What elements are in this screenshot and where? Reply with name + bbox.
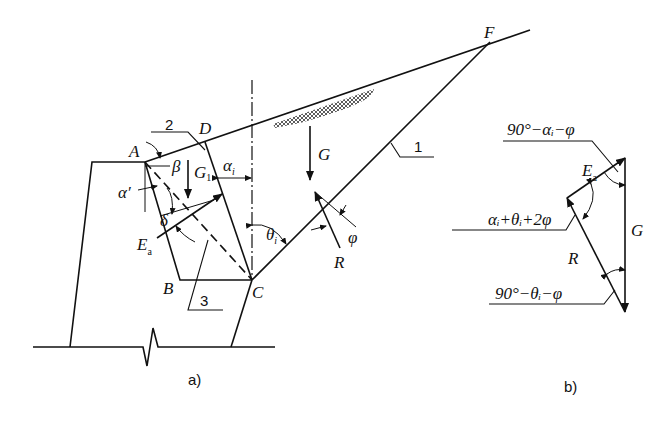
Ea-angle-arc xyxy=(176,226,195,242)
point-C-label: C xyxy=(252,283,264,302)
b-R-label: R xyxy=(567,249,579,268)
b-bottom-arc xyxy=(607,270,625,275)
b-mid-arc xyxy=(583,184,593,219)
force-diagram: A B C D F 1 2 3 G G1 Ea R αi β α′ δ θi φ… xyxy=(0,0,654,422)
angle-theta-i-label: θi xyxy=(266,225,277,246)
point-F-label: F xyxy=(483,23,495,42)
wall-heel xyxy=(231,280,252,347)
angle-beta-label: β xyxy=(171,157,181,176)
callout-3-label: 3 xyxy=(200,292,208,309)
retaining-wall xyxy=(70,162,145,347)
b-top-angle-label: 90°−αᵢ−φ xyxy=(507,120,575,139)
panel-a xyxy=(33,30,530,366)
force-Ea-label: Ea xyxy=(136,235,152,257)
phi-arc-2 xyxy=(311,226,326,230)
callout-2-leader xyxy=(151,132,205,150)
phi-arc-1 xyxy=(340,205,346,215)
Ea-parallel xyxy=(160,200,214,216)
angle-delta-label: δ xyxy=(160,211,169,230)
force-G1-label: G1 xyxy=(194,163,211,183)
callout-1-leader xyxy=(391,143,434,157)
angle-alpha-i-label: αi xyxy=(223,156,235,177)
callout-1-label: 1 xyxy=(414,138,422,155)
R-arrow xyxy=(315,192,340,248)
alpha-prime-arc xyxy=(138,186,157,190)
b-Ea-label: Ea xyxy=(581,161,597,183)
b-top-leader xyxy=(503,141,618,172)
point-B-label: B xyxy=(163,279,174,298)
angle-phi-label: φ xyxy=(348,228,357,247)
panel-b-caption: b) xyxy=(564,378,577,395)
point-D-label: D xyxy=(198,119,212,138)
beta-arc xyxy=(146,142,160,158)
ground-line xyxy=(33,328,275,366)
callout-2-label: 2 xyxy=(165,116,173,133)
slope-surface xyxy=(145,30,530,162)
angle-alpha-prime-label: α′ xyxy=(118,183,131,202)
b-bottom-angle-label: 90°−θᵢ−φ xyxy=(495,284,562,303)
b-mid-angle-label: αᵢ+θᵢ+2φ xyxy=(488,210,552,229)
force-R-label: R xyxy=(333,253,345,272)
force-G-label: G xyxy=(318,145,330,164)
b-G-label: G xyxy=(631,221,643,240)
soil-hatch xyxy=(273,89,374,128)
b-top-arc xyxy=(604,172,625,185)
point-A-label: A xyxy=(128,142,140,161)
failure-plane xyxy=(252,42,490,280)
panel-a-caption: a) xyxy=(188,371,201,388)
